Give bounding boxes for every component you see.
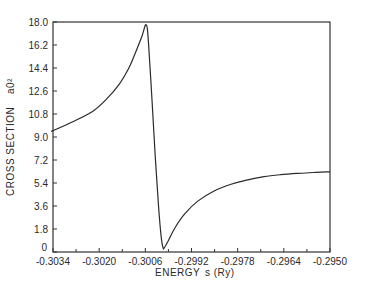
x-tick-label: -0.3006 xyxy=(128,256,162,267)
y-tick-label: 16.2 xyxy=(29,40,49,51)
y-axis-title: CROSS SECTION a0² xyxy=(5,78,16,196)
x-tick-label: -0.2978 xyxy=(221,256,255,267)
x-axis: -0.3034-0.3020-0.3006-0.2992-0.2978-0.29… xyxy=(36,248,347,267)
x-tick-label: -0.2992 xyxy=(175,256,209,267)
y-tick-label: 7.2 xyxy=(34,155,48,166)
x-axis-title: ENERGY s (Ry) xyxy=(155,267,235,278)
y-tick-label: 5.4 xyxy=(34,178,48,189)
x-tick-label: -0.3034 xyxy=(36,256,70,267)
y-tick-label: 9.0 xyxy=(34,132,48,143)
cross-section-curve xyxy=(52,25,330,250)
y-tick-label: 12.6 xyxy=(29,86,49,97)
cross-section-chart: -0.3034-0.3020-0.3006-0.2992-0.2978-0.29… xyxy=(0,0,365,291)
y-axis-unit: a0² xyxy=(5,78,16,94)
x-axis-unit: s (Ry) xyxy=(205,267,235,278)
y-tick-label: 18.0 xyxy=(29,17,49,28)
x-axis-label: ENERGY xyxy=(155,267,200,278)
x-tick-label: -0.2964 xyxy=(267,256,301,267)
y-tick-label: 1.8 xyxy=(34,224,48,235)
y-axis-label: CROSS SECTION xyxy=(5,107,16,196)
x-tick-label: -0.3020 xyxy=(82,256,116,267)
y-tick-label: 14.4 xyxy=(29,63,49,74)
plot-frame xyxy=(53,22,330,252)
y-tick-label: 10.8 xyxy=(29,109,49,120)
y-tick-label: 3.6 xyxy=(34,201,48,212)
y-tick-label: 0 xyxy=(41,242,47,253)
x-tick-label: -0.2950 xyxy=(313,256,347,267)
